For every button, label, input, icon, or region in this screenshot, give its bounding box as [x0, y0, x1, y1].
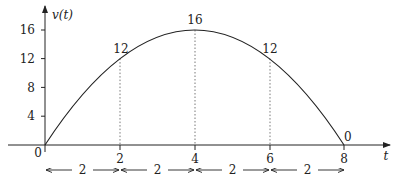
x-tick-6: 6	[266, 152, 274, 166]
point-label-t4: 16	[187, 13, 202, 27]
x-tick-8: 8	[340, 152, 348, 166]
interval-label-2: 2	[154, 163, 162, 177]
y-ticks	[41, 30, 45, 116]
interval-label-1: 2	[79, 163, 87, 177]
point-label-t6: 12	[262, 42, 277, 56]
y-axis-title: v(t)	[52, 8, 73, 22]
velocity-curve	[45, 30, 344, 145]
chart-canvas: 16 12 8 4 0 2 4 6 8 t v(t) 12 16 12 0 2 …	[0, 0, 403, 188]
x-tick-4: 4	[191, 152, 199, 166]
x-tick-2: 2	[116, 152, 124, 166]
y-tick-4: 4	[27, 109, 35, 123]
y-tick-12: 12	[20, 52, 35, 66]
x-ticks	[120, 145, 344, 150]
origin-label: 0	[34, 146, 42, 160]
velocity-chart: 16 12 8 4 0 2 4 6 8 t v(t) 12 16 12 0 2 …	[0, 0, 403, 188]
interval-label-3: 2	[229, 163, 237, 177]
y-tick-16: 16	[20, 23, 35, 37]
point-label-t8: 0	[344, 130, 352, 144]
interval-label-4: 2	[304, 163, 312, 177]
dotted-guides	[120, 30, 270, 145]
x-axis-title: t	[384, 149, 389, 163]
point-label-t2: 12	[113, 42, 128, 56]
y-tick-8: 8	[27, 81, 35, 95]
